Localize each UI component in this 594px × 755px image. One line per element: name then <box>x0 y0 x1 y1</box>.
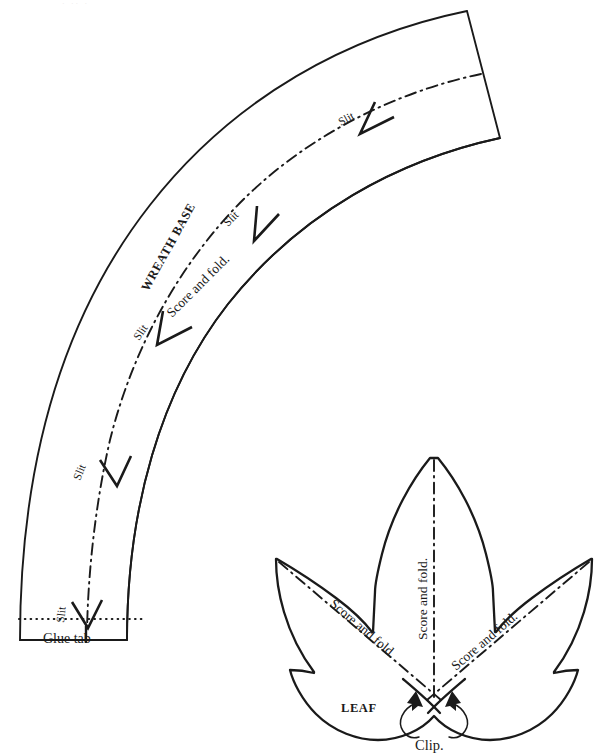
wreath-base-title: WREATH BASE <box>138 201 198 294</box>
slit-arrowhead-2 <box>254 206 279 241</box>
wreath-slit-label-4: Slit <box>71 462 88 482</box>
clip-label: Clip. <box>415 737 444 753</box>
template-sheet: · ·· · Slit Slit Slit Slit Slit <box>0 0 594 755</box>
leaf-score-fold-label-center: Score and fold. <box>415 558 430 640</box>
leaf-title: LEAF <box>341 701 377 715</box>
wreath-slit-label-5: Slit <box>54 605 68 623</box>
wreath-slit-label-2: Slit <box>221 208 241 228</box>
pattern-diagram: Slit Slit Slit Slit Slit Score and fold.… <box>0 0 594 755</box>
wreath-slit-markers <box>72 102 394 628</box>
wreath-score-fold-label: Score and fold. <box>164 251 233 320</box>
slit-arrowhead-1 <box>360 102 394 134</box>
glue-tab-label: Glue tab <box>43 631 91 646</box>
wreath-slit-label-1: Slit <box>336 109 356 128</box>
wreath-slit-label-3: Slit <box>131 322 150 343</box>
leaf-group: Score and fold. Score and fold. Score an… <box>276 458 592 753</box>
